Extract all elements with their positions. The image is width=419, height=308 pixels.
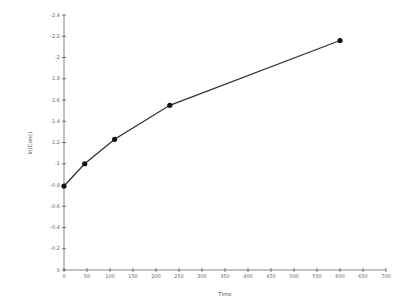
series-line <box>64 41 340 187</box>
x-tick-label: 250 <box>174 273 184 279</box>
x-tick-label: 650 <box>358 273 368 279</box>
line-chart: 0-0.2-0.4-0.6-0.8-1-1.2-1.4-1.6-1.8-2-2.… <box>0 0 419 308</box>
y-tick-label: -2 <box>55 54 60 60</box>
x-tick-label: 600 <box>335 273 345 279</box>
data-point-marker <box>337 38 342 43</box>
data-series <box>61 38 342 189</box>
y-tick-label: -1.8 <box>50 75 60 81</box>
x-tick-label: 400 <box>243 273 253 279</box>
y-tick-label: -0.2 <box>50 245 60 251</box>
y-tick-label: -2.2 <box>50 33 60 39</box>
x-tick-label: 200 <box>151 273 161 279</box>
x-tick-label: 50 <box>84 273 90 279</box>
axes <box>64 15 386 270</box>
y-tick-label: 0 <box>57 267 60 273</box>
data-point-marker <box>82 161 87 166</box>
x-tick-label: 700 <box>381 273 391 279</box>
x-tick-label: 550 <box>312 273 322 279</box>
y-tick-label: -0.4 <box>50 224 60 230</box>
x-tick-label: 450 <box>266 273 276 279</box>
x-axis-title: Time <box>217 291 232 297</box>
x-tick-label: 350 <box>220 273 230 279</box>
x-tick-label: 500 <box>289 273 299 279</box>
y-tick-label: -1.4 <box>50 118 60 124</box>
y-tick-label: -1.2 <box>50 139 60 145</box>
x-tick-label: 300 <box>197 273 207 279</box>
x-tick-label: 0 <box>62 273 65 279</box>
data-point-marker <box>112 137 117 142</box>
data-point-marker <box>61 183 66 188</box>
y-tick-label: -1 <box>55 160 60 166</box>
y-tick-label: -1.6 <box>50 97 60 103</box>
y-tick-label: -0.6 <box>50 203 60 209</box>
x-tick-label: 150 <box>128 273 138 279</box>
data-point-marker <box>167 103 172 108</box>
y-tick-label: -2.4 <box>50 12 60 18</box>
y-axis-title: ln(Conc) <box>27 131 33 154</box>
x-tick-label: 100 <box>105 273 115 279</box>
y-tick-label: -0.8 <box>50 182 60 188</box>
